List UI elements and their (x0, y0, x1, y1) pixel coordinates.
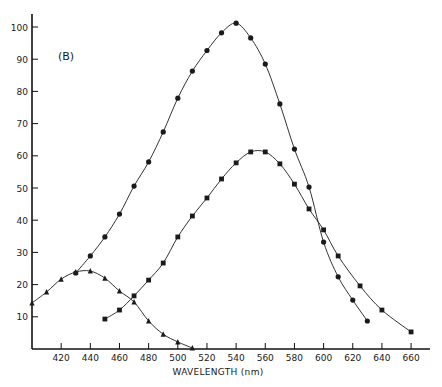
data-point-square (234, 160, 239, 165)
x-tick-label: 480 (140, 353, 157, 363)
chart: 420440460480500520540560580600620640660 … (0, 0, 442, 387)
series-line-squares (105, 151, 411, 332)
data-point-triangle (175, 339, 180, 345)
series-circles (73, 21, 370, 324)
data-point-circle (146, 159, 151, 164)
data-point-square (190, 214, 195, 219)
data-point-triangle (29, 300, 34, 306)
series-line-circles (76, 23, 368, 321)
data-point-circle (350, 297, 355, 302)
data-point-triangle (102, 275, 107, 281)
data-point-square (219, 177, 224, 182)
data-point-circle (292, 146, 297, 151)
y-tick-label: 70 (17, 119, 29, 129)
x-tick-label: 420 (53, 353, 70, 363)
data-point-square (307, 207, 312, 212)
y-tick-label: 60 (17, 151, 29, 161)
data-point-square (292, 182, 297, 187)
data-point-circle (219, 30, 224, 35)
x-tick-label: 460 (111, 353, 128, 363)
data-point-circle (131, 183, 136, 188)
data-point-circle (263, 61, 268, 66)
y-tick-label: 80 (17, 87, 29, 97)
data-point-square (146, 278, 151, 283)
series-squares (103, 150, 414, 335)
y-ticks: 102030405060708090100 (11, 23, 38, 323)
x-tick-label: 520 (198, 353, 215, 363)
x-ticks: 420440460480500520540560580600620640660 (53, 343, 420, 363)
y-tick-label: 50 (17, 184, 29, 194)
data-point-square (132, 293, 137, 298)
series-layer (29, 21, 413, 351)
data-point-circle (306, 184, 311, 189)
data-point-circle (248, 35, 253, 40)
y-tick-label: 100 (11, 23, 28, 33)
series-line-triangles (32, 271, 192, 348)
data-point-circle (190, 69, 195, 74)
x-tick-label: 660 (402, 353, 419, 363)
data-point-circle (336, 274, 341, 279)
data-point-square (175, 235, 180, 240)
data-point-square (263, 150, 268, 155)
x-tick-label: 540 (228, 353, 245, 363)
data-point-square (336, 254, 341, 259)
y-tick-label: 20 (17, 280, 29, 290)
x-tick-label: 580 (286, 353, 303, 363)
x-tick-label: 620 (344, 353, 361, 363)
data-point-square (103, 317, 108, 322)
data-point-square (380, 308, 385, 313)
data-point-square (409, 330, 414, 335)
y-tick-label: 10 (17, 312, 29, 322)
data-point-square (321, 227, 326, 232)
y-tick-label: 90 (17, 55, 29, 65)
data-point-circle (117, 211, 122, 216)
data-point-square (277, 161, 282, 166)
data-point-circle (88, 253, 93, 258)
data-point-circle (277, 101, 282, 106)
data-point-circle (365, 318, 370, 323)
data-point-circle (234, 21, 239, 26)
y-tick-label: 40 (17, 216, 29, 226)
x-tick-label: 560 (257, 353, 274, 363)
x-tick-label: 440 (82, 353, 99, 363)
data-point-square (358, 283, 363, 288)
data-point-square (205, 196, 210, 201)
x-tick-label: 600 (315, 353, 332, 363)
x-tick-label: 500 (169, 353, 186, 363)
data-point-circle (175, 96, 180, 101)
data-point-triangle (161, 331, 166, 337)
y-tick-label: 30 (17, 248, 29, 258)
series-triangles (29, 268, 195, 350)
data-point-square (161, 261, 166, 266)
data-point-square (117, 308, 122, 313)
data-point-circle (204, 48, 209, 53)
data-point-square (248, 150, 253, 155)
data-point-circle (102, 234, 107, 239)
data-point-circle (161, 129, 166, 134)
data-point-triangle (59, 276, 64, 282)
data-point-circle (321, 239, 326, 244)
x-tick-label: 640 (373, 353, 390, 363)
panel-label: (B) (58, 50, 74, 63)
x-axis-title: WAVELENGTH (nm) (172, 367, 263, 377)
